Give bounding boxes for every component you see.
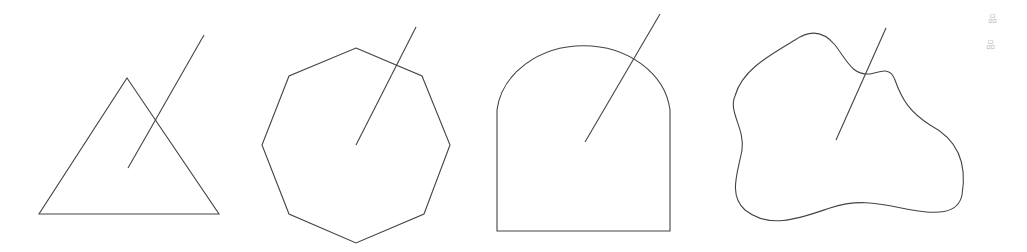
octagon-ray (356, 27, 416, 145)
blob-ray (836, 28, 886, 140)
triangle-shape (39, 78, 219, 214)
corner-mark-1: 品 (988, 12, 996, 25)
blob-shape (733, 33, 963, 221)
triangle-ray (128, 35, 204, 168)
octagon-shape (262, 48, 450, 243)
arch-shape (497, 46, 670, 231)
diagram-canvas (0, 0, 1027, 252)
corner-mark-2: 品 (986, 38, 994, 51)
arch-ray (585, 14, 660, 142)
